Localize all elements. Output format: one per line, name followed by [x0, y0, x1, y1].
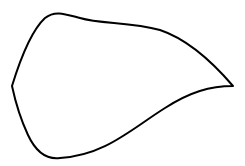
shape-outline-path — [12, 13, 233, 158]
diagram-canvas — [0, 0, 245, 166]
outline-shape — [0, 0, 245, 166]
